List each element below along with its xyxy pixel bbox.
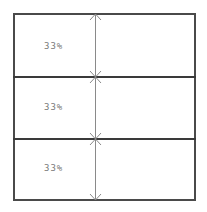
dimension-arrows: [0, 0, 207, 212]
